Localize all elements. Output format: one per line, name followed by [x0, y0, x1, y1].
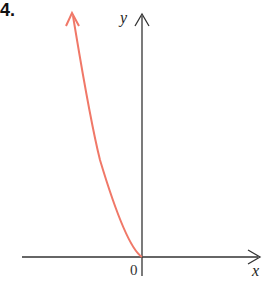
curve: [73, 16, 142, 257]
graph: y x 0: [0, 0, 280, 289]
y-axis-label: y: [118, 9, 128, 27]
x-axis-label: x: [251, 262, 259, 279]
curve-arrow-icon: [66, 13, 79, 26]
origin-label: 0: [130, 262, 138, 278]
